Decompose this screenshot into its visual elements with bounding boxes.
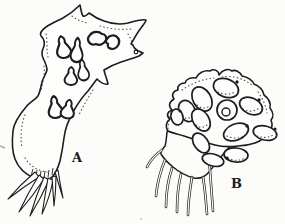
spore-blob-hook [106,35,119,49]
root-spine [52,176,56,206]
specimen-b-drawing: B [147,70,278,215]
apiculus-dot [179,110,182,113]
specimen-a-root-spines [8,170,63,216]
apiculus-dot [257,98,260,101]
specimen-illustration: A [0,0,285,224]
spore-blob-ring [88,32,106,45]
specimen-a-drawing: A [8,5,146,216]
apiculus-dot [273,127,276,130]
filament [147,150,162,167]
apiculus-dot [235,80,238,83]
figure-plate: A [0,0,285,224]
filament [156,160,165,196]
specimen-b-label: B [231,176,242,191]
scan-speck [140,218,142,220]
sporangium-oval [201,151,225,168]
sporangium-round [217,100,237,120]
apiculus-dot [245,124,248,127]
specimen-a-label: A [71,150,83,165]
scan-margin-mark [0,146,5,148]
